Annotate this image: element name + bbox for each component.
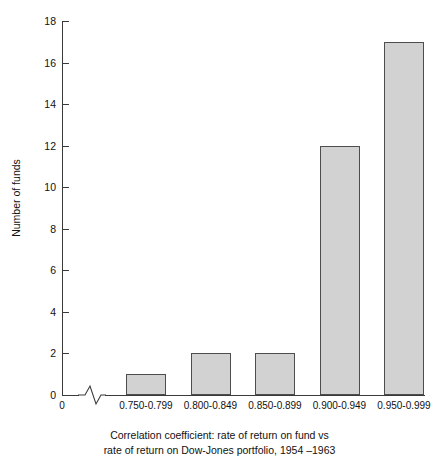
bar-0.850-0.899 bbox=[255, 353, 295, 395]
x-axis-line-left bbox=[62, 395, 79, 396]
x-tick-label-0.950-0.999: 0.950-0.999 bbox=[372, 400, 436, 412]
chart-caption: Correlation coefficient: rate of return … bbox=[0, 428, 439, 458]
y-tick-label-8: 8 bbox=[30, 224, 56, 234]
histogram-chart: Number of funds 024681012141618 0 0.750-… bbox=[0, 0, 439, 473]
y-axis-title: Number of funds bbox=[10, 143, 22, 253]
caption-line-1: Correlation coefficient: rate of return … bbox=[0, 428, 439, 443]
x-axis-line-right bbox=[105, 395, 425, 396]
x-axis-origin-label: 0 bbox=[52, 400, 72, 411]
bar-0.750-0.799 bbox=[126, 374, 166, 395]
plot-area bbox=[62, 21, 425, 395]
bar-0.900-0.949 bbox=[320, 146, 360, 395]
y-tick-label-6: 6 bbox=[30, 265, 56, 275]
y-tick-label-18: 18 bbox=[30, 16, 56, 26]
y-tick-label-0: 0 bbox=[30, 390, 56, 400]
x-tick-label-0.900-0.949: 0.900-0.949 bbox=[308, 400, 372, 412]
x-tick-label-0.850-0.899: 0.850-0.899 bbox=[243, 400, 307, 412]
y-tick-label-14: 14 bbox=[30, 99, 56, 109]
y-tick-label-2: 2 bbox=[30, 348, 56, 358]
x-tick-label-0.750-0.799: 0.750-0.799 bbox=[114, 400, 178, 412]
y-tick-label-10: 10 bbox=[30, 182, 56, 192]
y-tick-label-12: 12 bbox=[30, 141, 56, 151]
bar-0.800-0.849 bbox=[191, 353, 231, 395]
caption-line-2: rate of return on Dow-Jones portfolio, 1… bbox=[0, 443, 439, 458]
x-tick-label-0.800-0.849: 0.800-0.849 bbox=[179, 400, 243, 412]
y-tick-label-4: 4 bbox=[30, 307, 56, 317]
y-tick-label-16: 16 bbox=[30, 58, 56, 68]
bar-0.950-0.999 bbox=[384, 42, 424, 395]
